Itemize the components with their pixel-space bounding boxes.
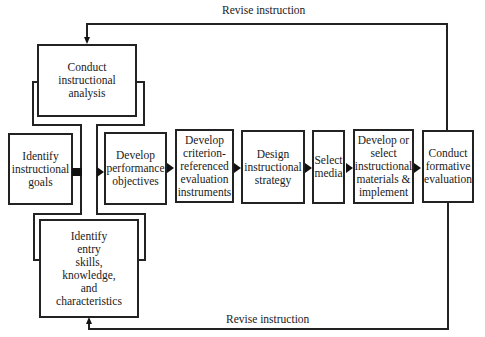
- bracket-bottom-right-horizontal: [96, 213, 146, 215]
- node-select-media: Select media: [312, 130, 345, 204]
- arrow-right-icon: [346, 163, 353, 173]
- node-label: Develop or select instructional material…: [355, 134, 413, 199]
- node-label: Design instructional strategy: [244, 148, 302, 187]
- node-instructional-goals: Identify instructional goals: [8, 133, 73, 205]
- node-entry-skills: Identify entry skills, knowledge, and ch…: [39, 219, 139, 318]
- node-formative-evaluation: Conduct formative evaluation: [422, 130, 474, 203]
- node-label: Develop performance objectives: [106, 149, 164, 188]
- node-label: Conduct formative evaluation: [424, 147, 472, 186]
- bracket-top-right-horizontal: [97, 124, 145, 126]
- arrow-down-icon: [84, 37, 90, 44]
- arrow-right-icon: [97, 167, 104, 177]
- arrow-right-icon: [167, 163, 174, 173]
- revise-instruction-bottom-label: Revise instruction: [226, 313, 309, 325]
- arrow-right-icon: [414, 163, 421, 173]
- bracket-bottom-left-vertical: [33, 213, 35, 261]
- goals-connector: [72, 168, 82, 176]
- feedback-bottom-horizontal: [88, 328, 449, 330]
- node-instructional-analysis: Conduct instructional analysis: [37, 44, 137, 117]
- arrow-up-icon: [86, 317, 92, 324]
- node-criterion-instruments: Develop criterion- referenced evaluation…: [175, 129, 234, 203]
- bracket-bottom-right-vertical: [144, 213, 146, 261]
- arrow-right-icon: [234, 163, 241, 173]
- node-label: Identify instructional goals: [12, 150, 70, 189]
- node-label: Conduct instructional analysis: [58, 61, 116, 100]
- arrow-right-icon: [305, 163, 312, 173]
- bracket-top-right-vertical: [143, 81, 145, 125]
- feedback-bottom-right-vertical: [447, 202, 449, 330]
- bracket-top-right-stub: [136, 81, 144, 83]
- bracket-top-left-horizontal: [32, 124, 81, 126]
- feedback-top-horizontal: [86, 23, 448, 25]
- revise-instruction-top-label: Revise instruction: [222, 4, 305, 16]
- node-label: Select media: [314, 154, 342, 180]
- feedback-top-right-vertical: [446, 23, 448, 131]
- bracket-bottom-left-horizontal: [33, 213, 82, 215]
- feedback-top-left-vertical: [86, 23, 88, 37]
- node-label: Develop criterion- referenced evaluation…: [178, 134, 232, 199]
- node-develop-materials: Develop or select instructional material…: [353, 129, 414, 204]
- bracket-top-left-vertical: [32, 81, 34, 125]
- node-label: Identify entry skills, knowledge, and ch…: [56, 230, 122, 308]
- node-instructional-strategy: Design instructional strategy: [241, 130, 305, 204]
- node-performance-objectives: Develop performance objectives: [104, 132, 167, 205]
